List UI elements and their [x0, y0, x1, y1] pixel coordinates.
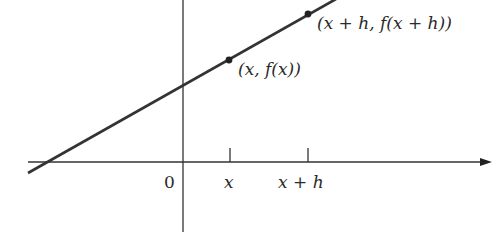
- point-x-fx: [226, 57, 233, 64]
- secant-line: [28, 0, 336, 173]
- tick-label-x-plus-h: x + h: [278, 172, 324, 192]
- tick-label-x: x: [224, 172, 234, 192]
- point-label-x-fx: (x, f(x)): [238, 59, 301, 79]
- x-axis-arrowhead-icon: [480, 158, 492, 166]
- point-xh-fxh: [305, 11, 312, 18]
- point-label-xh-fxh: (x + h, f(x + h)): [317, 13, 452, 33]
- secant-diagram: 0 x x + h (x, f(x)) (x + h, f(x + h)): [0, 0, 499, 242]
- origin-label: 0: [164, 172, 175, 192]
